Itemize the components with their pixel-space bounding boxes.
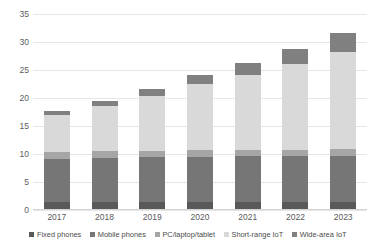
bar-segment[interactable] <box>139 96 165 151</box>
legend-label: Mobile phones <box>98 231 146 238</box>
bar-segment[interactable] <box>330 156 356 202</box>
stacked-bar-chart: 05101520253035 2017201820192020202120222… <box>0 0 376 250</box>
y-axis-tick-label: 35 <box>4 10 29 19</box>
y-axis-tick-label: 30 <box>4 38 29 47</box>
bar-segment[interactable] <box>139 89 165 96</box>
bar-segment[interactable] <box>139 157 165 201</box>
bar-segment[interactable] <box>187 75 213 84</box>
bar-segment[interactable] <box>44 159 70 202</box>
legend-swatch-icon <box>224 232 229 237</box>
x-axis-tick-label: 2018 <box>85 213 125 222</box>
bar-segment[interactable] <box>235 156 261 201</box>
legend-item[interactable]: Fixed phones <box>29 231 81 238</box>
legend-swatch-icon <box>29 232 34 237</box>
bar-stack[interactable] <box>139 89 165 210</box>
bar-series-container <box>33 14 367 210</box>
bar-stack[interactable] <box>282 49 308 210</box>
y-axis-tick-label: 0 <box>4 206 29 215</box>
x-axis-tick-label: 2020 <box>180 213 220 222</box>
bar-segment[interactable] <box>282 156 308 202</box>
legend-item[interactable]: Wide-area IoT <box>292 231 346 238</box>
legend-label: Wide-area IoT <box>300 231 347 238</box>
y-axis-tick-label: 10 <box>4 150 29 159</box>
x-axis-baseline <box>33 209 367 210</box>
legend-swatch-icon <box>90 232 95 237</box>
bar-segment[interactable] <box>44 152 70 159</box>
chart-legend: Fixed phonesMobile phonesPC/laptop/table… <box>0 231 376 238</box>
bar-segment[interactable] <box>92 158 118 202</box>
legend-label: PC/laptop/tablet <box>162 231 215 238</box>
bar-segment[interactable] <box>235 63 261 74</box>
legend-item[interactable]: Short-range IoT <box>224 231 283 238</box>
legend-item[interactable]: Mobile phones <box>90 231 146 238</box>
bar-segment[interactable] <box>282 150 308 157</box>
legend-label: Short-range IoT <box>231 231 283 238</box>
bar-segment[interactable] <box>330 149 356 156</box>
x-axis-tick-label: 2019 <box>132 213 172 222</box>
bar-segment[interactable] <box>92 106 118 151</box>
bar-stack[interactable] <box>92 101 118 210</box>
plot-area <box>33 14 367 210</box>
bar-segment[interactable] <box>44 115 70 153</box>
bar-segment[interactable] <box>187 84 213 150</box>
legend-swatch-icon <box>292 232 297 237</box>
bar-stack[interactable] <box>44 111 70 210</box>
bar-segment[interactable] <box>235 75 261 150</box>
bar-segment[interactable] <box>282 49 308 64</box>
y-axis-tick-label: 25 <box>4 66 29 75</box>
bar-stack[interactable] <box>187 75 213 210</box>
x-axis-tick-label: 2017 <box>37 213 77 222</box>
bar-segment[interactable] <box>282 64 308 150</box>
legend-swatch-icon <box>155 232 160 237</box>
y-axis-tick-label: 20 <box>4 94 29 103</box>
bar-segment[interactable] <box>330 33 356 51</box>
x-axis-tick-label: 2022 <box>275 213 315 222</box>
bar-segment[interactable] <box>235 150 261 157</box>
y-axis-tick-label: 5 <box>4 178 29 187</box>
bar-segment[interactable] <box>92 151 118 158</box>
bar-stack[interactable] <box>330 33 356 210</box>
legend-label: Fixed phones <box>37 231 81 238</box>
legend-item[interactable]: PC/laptop/tablet <box>155 231 215 238</box>
bar-segment[interactable] <box>139 151 165 158</box>
bar-segment[interactable] <box>330 52 356 149</box>
y-axis-tick-label: 15 <box>4 122 29 131</box>
bar-segment[interactable] <box>187 150 213 157</box>
x-axis-tick-label: 2021 <box>228 213 268 222</box>
x-axis-tick-label: 2023 <box>323 213 363 222</box>
bar-stack[interactable] <box>235 63 261 210</box>
bar-segment[interactable] <box>187 157 213 202</box>
gridline <box>33 210 367 211</box>
